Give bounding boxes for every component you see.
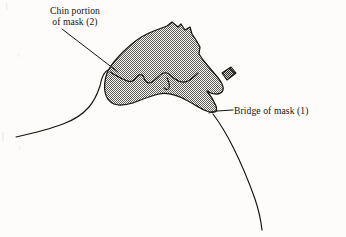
scan-noise xyxy=(2,3,20,150)
mask-illustration-figure: Chin portion of mask (2) Bridge of mask … xyxy=(0,0,346,237)
mask-body xyxy=(105,22,224,112)
label-bridge-of-mask: Bridge of mask (1) xyxy=(234,105,309,116)
label-bridge-line1: Bridge of mask (1) xyxy=(234,105,309,116)
label-chin-portion: Chin portion of mask (2) xyxy=(36,5,114,27)
nose-clip xyxy=(222,67,236,80)
label-chin-line1: Chin portion xyxy=(36,5,114,16)
leader-line-chin xyxy=(62,29,118,72)
leader-line-bridge xyxy=(217,110,233,111)
illustration-canvas xyxy=(0,0,346,237)
label-chin-line2: of mask (2) xyxy=(36,16,114,27)
